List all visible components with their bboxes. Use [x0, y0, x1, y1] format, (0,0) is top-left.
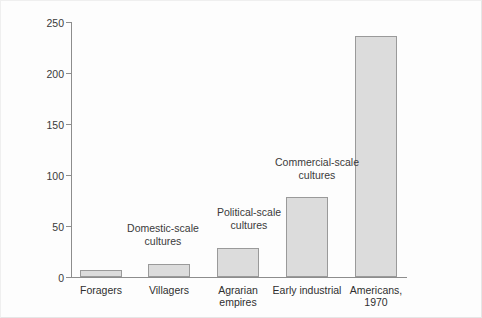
y-tick-mark [66, 73, 71, 74]
y-tick-200: 200 [71, 73, 72, 74]
y-tick-label: 150 [46, 119, 64, 130]
y-tick-0: 0 [71, 277, 72, 278]
y-axis-line [71, 22, 72, 277]
bar-villagers [148, 264, 190, 277]
y-tick-mark [66, 226, 71, 227]
y-tick-label: 100 [46, 170, 64, 181]
y-tick-label: 250 [46, 17, 64, 28]
y-tick-mark [66, 22, 71, 23]
chart-figure: Daily per-capita consumption (1000 kcal)… [0, 0, 482, 318]
annotation-commercial-scale-cultures: Commercial-scale cultures [242, 156, 392, 181]
y-tick-label: 0 [58, 272, 64, 283]
y-tick-50: 50 [71, 226, 72, 227]
y-tick-150: 150 [71, 124, 72, 125]
bar-agrarian-empires [217, 248, 259, 277]
y-tick-mark [66, 277, 71, 278]
y-tick-mark [66, 124, 71, 125]
y-tick-label: 200 [46, 68, 64, 79]
y-tick-label: 50 [52, 221, 64, 232]
y-tick-mark [66, 175, 71, 176]
bar-foragers [80, 270, 122, 277]
annotation-political-scale-cultures: Political-scale cultures [179, 206, 319, 231]
category-label-americans-1970: Americans, 1970 [326, 284, 426, 308]
plot-area: 0 50 100 150 200 250 Foragers Villa [71, 22, 407, 277]
y-tick-250: 250 [71, 22, 72, 23]
y-tick-100: 100 [71, 175, 72, 176]
x-axis-line [71, 277, 407, 278]
